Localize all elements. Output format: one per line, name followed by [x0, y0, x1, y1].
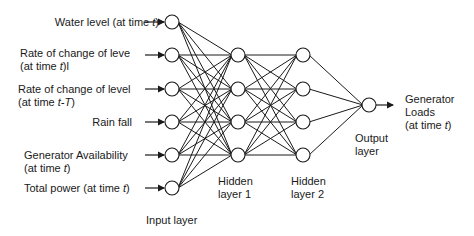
output-label-generator-loads: GeneratorLoads(at time t): [405, 93, 455, 132]
hidden2-node: [296, 115, 310, 129]
output-layer-label: Outputlayer: [355, 132, 388, 158]
hidden1-node: [231, 115, 245, 129]
input-label-generator-availability: Generator Availability(at time t): [24, 149, 128, 175]
input-label-water-level: Water level (at time t): [55, 16, 159, 29]
input-node: [165, 181, 179, 195]
input-label-total-power: Total power (at time t): [24, 182, 130, 195]
input-node: [165, 115, 179, 129]
hidden1-node: [231, 82, 245, 96]
input-node: [165, 82, 179, 96]
input-node: [165, 15, 179, 29]
output-node: [362, 98, 376, 112]
hidden2-node: [296, 148, 310, 162]
input-label-rate-change-level-lag: Rate of change of level(at time t-T): [18, 83, 131, 109]
edge-input-hidden1: [178, 22, 232, 55]
input-label-rain-fall: Rain fall: [92, 116, 132, 129]
input-label-rate-change-level: Rate of change of leve(at time t)l: [20, 47, 130, 73]
hidden1-node: [231, 148, 245, 162]
hidden-layer-2-label: Hiddenlayer 2: [291, 175, 326, 201]
input-node: [165, 148, 179, 162]
hidden2-node: [296, 48, 310, 62]
hidden1-node: [231, 48, 245, 62]
hidden-layer-1-label: Hiddenlayer 1: [218, 175, 253, 201]
edge-hidden2-output: [309, 105, 363, 122]
edge-input-hidden1: [178, 89, 232, 188]
hidden2-node: [296, 82, 310, 96]
input-node: [165, 48, 179, 62]
input-layer-label: Input layer: [146, 214, 197, 227]
